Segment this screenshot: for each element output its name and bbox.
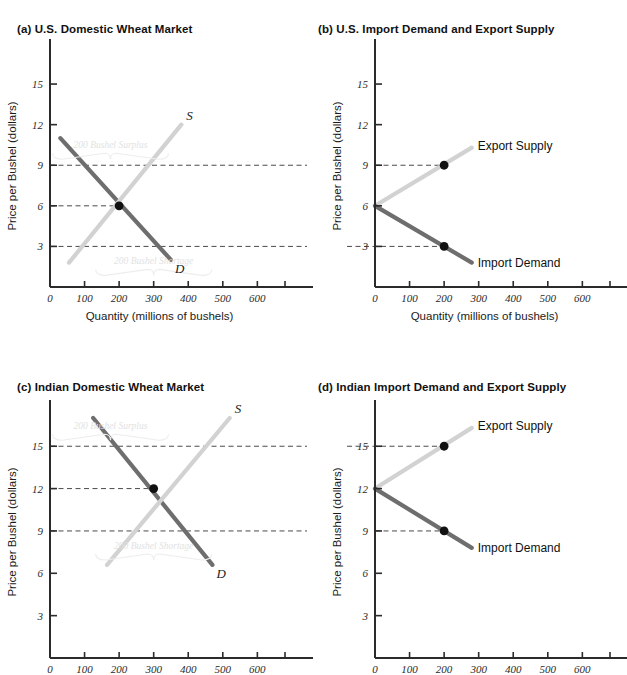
- y-tick-label-12: 12: [32, 119, 44, 131]
- x-tick-label-500: 500: [215, 292, 232, 304]
- y-tick-label-12: 12: [32, 483, 44, 495]
- x-axis-label: Quantity (millions of bushels): [86, 310, 234, 322]
- x-tick-label-0: 0: [372, 663, 378, 675]
- supply-curve-label: S: [235, 401, 242, 416]
- panel-b: (b) U.S. Import Demand and Export Supply…: [313, 0, 627, 340]
- demand-curve-label: D: [215, 566, 226, 581]
- x-tick-label-600: 600: [574, 663, 591, 675]
- y-tick-label-3: 3: [37, 610, 44, 622]
- panel-c-chart: 200 Bushel Surplus200 Bushel Shortage010…: [0, 378, 313, 675]
- y-tick-label-12: 12: [357, 119, 369, 131]
- annotation-brace-shortage: [96, 269, 212, 275]
- curve-import-demand: [375, 489, 472, 548]
- x-tick-label-500: 500: [540, 663, 557, 675]
- import-demand-label: Import Demand: [478, 256, 561, 270]
- y-tick-label-3: 3: [37, 240, 44, 252]
- y-tick-label-6: 6: [363, 200, 369, 212]
- x-tick-label-400: 400: [505, 663, 522, 675]
- x-tick-label-500: 500: [215, 663, 232, 675]
- curve-import-demand: [375, 206, 472, 263]
- y-axis-label: Price per Bushel (dollars): [6, 101, 18, 230]
- panel-a: (a) U.S. Domestic Wheat Market 200 Bushe…: [0, 0, 313, 340]
- x-tick-label-300: 300: [469, 663, 487, 675]
- panel-d-chart: 01002003004005006003691215Export SupplyI…: [313, 378, 627, 675]
- data-point-import-demand-point[interactable]: [440, 242, 449, 251]
- panel-b-chart: 01002003004005006003691215Export SupplyI…: [313, 20, 627, 340]
- x-tick-label-100: 100: [76, 663, 93, 675]
- panel-a-chart: 200 Bushel Surplus200 Bushel Shortage010…: [0, 20, 313, 340]
- x-tick-label-100: 100: [401, 292, 418, 304]
- y-tick-label-6: 6: [363, 567, 369, 579]
- x-tick-label-0: 0: [372, 292, 378, 304]
- y-axis-label: Price per Bushel (dollars): [6, 467, 18, 596]
- y-tick-label-3: 3: [362, 610, 369, 622]
- x-tick-label-200: 200: [111, 292, 128, 304]
- x-tick-label-600: 600: [249, 292, 266, 304]
- export-supply-label: Export Supply: [478, 139, 553, 153]
- annotation-brace-surplus: [52, 153, 168, 159]
- data-point-export-supply-point[interactable]: [440, 161, 449, 170]
- y-tick-label-9: 9: [38, 159, 44, 171]
- x-tick-label-400: 400: [180, 292, 197, 304]
- export-supply-label: Export Supply: [478, 419, 553, 433]
- x-tick-label-300: 300: [144, 292, 162, 304]
- x-axis-label: Quantity (millions of bushels): [411, 310, 559, 322]
- x-tick-label-400: 400: [505, 292, 522, 304]
- y-tick-label-9: 9: [38, 525, 44, 537]
- x-tick-label-200: 200: [436, 292, 453, 304]
- x-tick-label-0: 0: [47, 292, 53, 304]
- y-tick-label-9: 9: [363, 525, 369, 537]
- figure-root: (a) U.S. Domestic Wheat Market 200 Bushe…: [0, 0, 627, 675]
- data-point-equilibrium[interactable]: [115, 201, 124, 210]
- import-demand-label: Import Demand: [478, 541, 561, 555]
- x-tick-label-300: 300: [144, 663, 162, 675]
- x-tick-label-200: 200: [111, 663, 128, 675]
- curve-export-supply: [375, 148, 472, 206]
- y-axis-label: Price per Bushel (dollars): [331, 467, 343, 596]
- y-tick-label-9: 9: [363, 159, 369, 171]
- supply-curve-label: S: [186, 108, 193, 123]
- annotation-surplus: 200 Bushel Surplus: [74, 140, 148, 150]
- x-tick-label-300: 300: [469, 292, 487, 304]
- y-tick-label-12: 12: [357, 483, 369, 495]
- x-tick-label-600: 600: [249, 663, 266, 675]
- curve-export-supply: [375, 428, 472, 489]
- demand-curve-label: D: [174, 261, 185, 276]
- x-tick-label-400: 400: [180, 663, 197, 675]
- x-tick-label-100: 100: [76, 292, 93, 304]
- x-tick-label-200: 200: [436, 663, 453, 675]
- annotation-brace-surplus: [52, 434, 168, 440]
- data-point-import-demand-point[interactable]: [440, 527, 449, 536]
- x-tick-label-600: 600: [574, 292, 591, 304]
- panel-d: (d) Indian Import Demand and Export Supp…: [313, 340, 627, 675]
- x-tick-label-100: 100: [401, 663, 418, 675]
- y-tick-label-15: 15: [357, 440, 369, 452]
- y-tick-label-15: 15: [357, 78, 369, 90]
- panel-c: (c) Indian Domestic Wheat Market 200 Bus…: [0, 340, 313, 675]
- annotation-shortage: 200 Bushel Shortage: [114, 541, 193, 551]
- y-tick-label-6: 6: [38, 567, 44, 579]
- x-tick-label-0: 0: [47, 663, 53, 675]
- y-tick-label-15: 15: [32, 440, 44, 452]
- y-tick-label-3: 3: [362, 240, 369, 252]
- y-tick-label-6: 6: [38, 200, 44, 212]
- annotation-surplus: 200 Bushel Surplus: [74, 421, 148, 431]
- data-point-equilibrium[interactable]: [149, 484, 158, 493]
- y-tick-label-15: 15: [32, 78, 44, 90]
- y-axis-label: Price per Bushel (dollars): [331, 101, 343, 230]
- x-tick-label-500: 500: [540, 292, 557, 304]
- data-point-export-supply-point[interactable]: [440, 442, 449, 451]
